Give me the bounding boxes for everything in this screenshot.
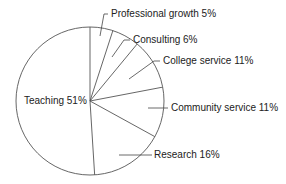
label-research: Research 16%: [154, 149, 220, 161]
label-consulting: Consulting 6%: [133, 34, 197, 46]
label-teaching: Teaching 51%: [24, 95, 87, 107]
label-college-service: College service 11%: [163, 55, 253, 67]
label-professional-growth: Professional growth 5%: [111, 8, 216, 20]
pie-chart: [0, 0, 286, 184]
label-community-service: Community service 11%: [171, 102, 278, 114]
